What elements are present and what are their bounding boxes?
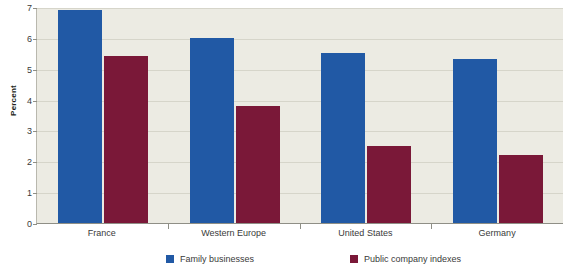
legend-swatch-icon (350, 255, 358, 263)
bar-chart: Percent 01234567 FranceWestern EuropeUni… (0, 0, 573, 273)
legend-item-family-businesses[interactable]: Family businesses (166, 254, 254, 264)
y-axis-tick-label: 3 (16, 126, 32, 136)
bar-france-family-businesses (58, 10, 102, 223)
y-axis-tick (33, 101, 37, 102)
gridline (37, 39, 563, 40)
bar-germany-public-company-indexes (499, 155, 543, 223)
bar-germany-family-businesses (453, 59, 497, 223)
legend-swatch-icon (166, 255, 174, 263)
legend-label: Public company indexes (364, 254, 461, 264)
gridline (37, 8, 563, 9)
bar-western-europe-family-businesses (190, 38, 234, 223)
y-axis-tick-label: 4 (16, 96, 32, 106)
x-axis-tick (168, 224, 169, 229)
y-axis-tick-label: 5 (16, 65, 32, 75)
y-axis-tick (33, 193, 37, 194)
bar-united-states-family-businesses (321, 53, 365, 223)
y-axis-tick (33, 39, 37, 40)
y-axis-tick-label: 0 (16, 219, 32, 229)
bar-western-europe-public-company-indexes (236, 106, 280, 223)
chart-legend: Family businessesPublic company indexes (0, 254, 573, 268)
bar-united-states-public-company-indexes (367, 146, 411, 223)
y-axis-tick-label: 7 (16, 3, 32, 13)
y-axis-tick (33, 8, 37, 9)
y-axis-tick (33, 224, 37, 225)
y-axis-tick (33, 131, 37, 132)
x-axis-label-germany: Germany (479, 228, 516, 238)
y-axis-tick-label: 1 (16, 188, 32, 198)
x-axis-label-united-states: United States (338, 228, 392, 238)
x-axis-tick (431, 224, 432, 229)
y-axis-tick-label: 2 (16, 157, 32, 167)
y-axis-tick (33, 70, 37, 71)
y-axis-tick-label: 6 (16, 34, 32, 44)
bar-france-public-company-indexes (104, 56, 148, 223)
legend-item-public-company-indexes[interactable]: Public company indexes (350, 254, 461, 264)
legend-label: Family businesses (180, 254, 254, 264)
y-axis-tick (33, 162, 37, 163)
x-axis-label-france: France (88, 228, 116, 238)
x-axis-label-western-europe: Western Europe (201, 228, 266, 238)
y-axis-tick-labels: 01234567 (14, 0, 32, 273)
plot-area (36, 8, 563, 224)
x-axis-tick (300, 224, 301, 229)
